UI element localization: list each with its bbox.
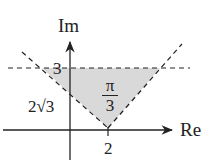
angle-denominator: 3 bbox=[102, 97, 118, 114]
y-intercept-label: 2√3 bbox=[28, 98, 54, 115]
x-tick-2-label: 2 bbox=[104, 140, 113, 157]
complex-plane-diagram: Im Re 3 2√3 2 π 3 bbox=[0, 0, 212, 160]
re-axis-label: Re bbox=[180, 120, 201, 139]
angle-label: π 3 bbox=[102, 77, 118, 114]
y-tick-3-label: 3 bbox=[53, 60, 62, 77]
im-axis-label: Im bbox=[58, 16, 79, 35]
angle-numerator: π bbox=[102, 77, 118, 94]
